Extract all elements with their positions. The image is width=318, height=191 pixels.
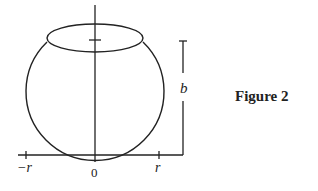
b-label: b [180, 80, 188, 96]
tick-label-zero: 0 [91, 165, 98, 180]
tick-label-r: r [155, 160, 161, 175]
bowl-diagram: b −r 0 r Figure 2 [0, 0, 318, 191]
tick-label-neg-r: −r [17, 160, 32, 175]
figure-caption: Figure 2 [235, 88, 288, 104]
